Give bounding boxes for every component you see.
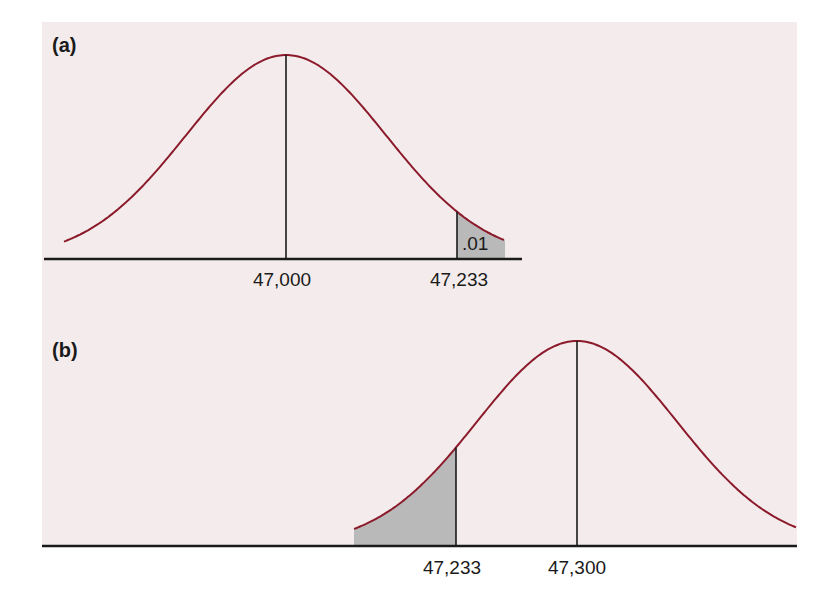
panel-b: (b) 47,233 47,300	[42, 339, 797, 578]
tick-label-cutoff-a: 47,233	[430, 269, 488, 290]
tick-label-mean-a: 47,000	[253, 269, 311, 290]
normal-curve-a	[64, 55, 504, 242]
shaded-left-tail	[354, 447, 456, 546]
tail-area-label: .01	[462, 233, 488, 254]
panel-a-label: (a)	[52, 34, 76, 56]
panel-b-label: (b)	[52, 339, 78, 361]
tick-label-cutoff-b: 47,233	[423, 557, 481, 578]
figure: (a) .01 47,000 47,233 (b) 47,233 47,300	[0, 0, 840, 616]
panel-a: (a) .01 47,000 47,233	[44, 34, 522, 290]
tick-label-mean-b: 47,300	[548, 557, 606, 578]
